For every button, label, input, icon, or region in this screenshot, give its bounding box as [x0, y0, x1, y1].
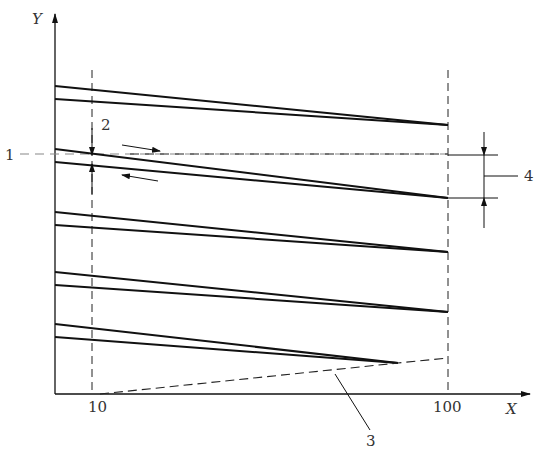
x-tick-10: 10: [88, 398, 107, 416]
pair-4-upper: [55, 272, 448, 312]
callout-4: 4: [524, 167, 534, 185]
envelope-line-3: [100, 358, 448, 394]
pair-1-upper: [55, 86, 448, 125]
diagram-canvas: Y X 10 100 1 2 4 3: [0, 0, 543, 454]
pair-3-lower: [55, 225, 448, 252]
callout-3-leader: [335, 374, 370, 430]
pair-2-upper: [55, 149, 448, 198]
pair-5-lower: [55, 337, 398, 363]
diagram-svg: Y X 10 100 1 2 4 3: [0, 0, 543, 454]
pair-3-upper: [55, 212, 448, 252]
x-tick-100: 100: [433, 398, 462, 416]
x-axis-label: X: [505, 400, 518, 418]
pair-1-lower: [55, 99, 448, 125]
callout-1: 1: [5, 146, 15, 164]
pair-5-upper: [55, 324, 398, 363]
motion-arrow-left: [122, 175, 158, 181]
pair-4-lower: [55, 285, 448, 312]
motion-arrow-right: [122, 145, 160, 151]
callout-3: 3: [366, 432, 376, 450]
line-pairs: [55, 86, 448, 363]
callout-2: 2: [101, 116, 111, 134]
y-axis-label: Y: [32, 10, 44, 28]
pair-2-lower: [55, 162, 448, 198]
